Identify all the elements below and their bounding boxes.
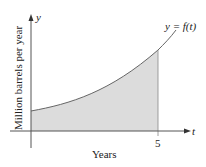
shaded-area (31, 50, 158, 131)
x-axis-symbol: t (192, 125, 196, 137)
x-axis-arrow-icon (184, 129, 191, 134)
y-axis-symbol: y (35, 11, 41, 23)
curve-label: y = f(t) (164, 20, 197, 33)
y-axis-arrow-icon (29, 14, 34, 21)
y-axis-label: Million barrels per year (12, 26, 24, 130)
chart: y t y = f(t) 5 Years Million barrels per… (0, 0, 206, 167)
x-tick-5: 5 (155, 137, 161, 149)
x-axis-label: Years (92, 148, 117, 160)
